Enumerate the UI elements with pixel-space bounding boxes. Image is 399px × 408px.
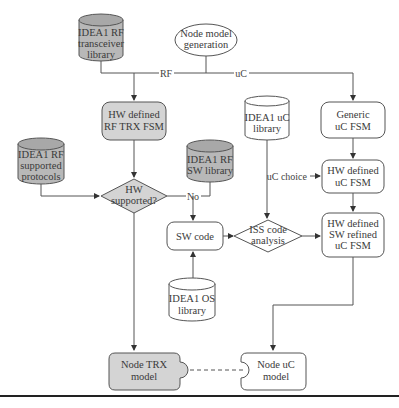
svg-text:SW code: SW code [176,231,214,242]
svg-text:HW: HW [125,184,143,195]
uc-edge-label: uC [235,68,247,79]
generic-uc-fsm-box: Generic uC FSM [321,102,385,138]
svg-text:HW defined: HW defined [327,165,379,176]
svg-text:IDEA1 uC: IDEA1 uC [244,112,289,123]
svg-text:generation: generation [184,39,229,50]
rf-sw-library-cylinder: IDEA1 RF SW library [187,140,234,182]
svg-text:protocols: protocols [21,171,60,182]
svg-text:SW refined: SW refined [329,229,378,240]
svg-text:supported: supported [20,160,62,171]
svg-text:Node TRX: Node TRX [121,359,168,370]
svg-text:library: library [253,123,282,134]
svg-text:SW library: SW library [187,165,234,176]
sw-code-box: SW code [167,222,223,250]
svg-text:IDEA1 OS: IDEA1 OS [169,293,216,304]
flow-diagram: IDEA1 RF transceiver library Node model … [0,0,399,408]
caption-divider-rule [0,395,399,397]
svg-text:ISS code: ISS code [249,224,287,235]
svg-text:IDEA1 RF: IDEA1 RF [78,27,124,38]
node-uc-model-block: Node uC model [241,353,306,390]
svg-text:IDEA1 RF: IDEA1 RF [18,149,64,160]
os-library-cylinder: IDEA1 OS library [169,278,216,321]
rf-edge-label: RF [160,68,173,79]
svg-text:model: model [263,371,289,382]
svg-text:transceiver: transceiver [78,38,125,49]
hw-defined-uc-fsm-box: HW defined uC FSM [322,160,384,193]
svg-text:HW defined: HW defined [108,109,160,120]
svg-text:RF TRX FSM: RF TRX FSM [104,121,165,132]
svg-text:uC FSM: uC FSM [335,177,372,188]
svg-text:HW defined: HW defined [327,218,379,229]
svg-text:uC FSM: uC FSM [335,121,372,132]
svg-text:Generic: Generic [336,109,370,120]
iss-code-analysis-decision: ISS code analysis [234,220,302,252]
svg-text:supported?: supported? [111,195,157,206]
svg-text:IDEA1 RF: IDEA1 RF [187,154,233,165]
uc-library-cylinder: IDEA1 uC library [244,96,289,140]
svg-text:model: model [131,371,157,382]
svg-text:analysis: analysis [251,235,285,246]
no-edge-label: No [187,191,199,202]
node-trx-model-block: Node TRX model [109,353,188,390]
node-model-generation-ellipse: Node model generation [175,24,237,56]
uc-choice-edge-label: uC choice [267,171,308,182]
svg-text:Node uC: Node uC [257,359,295,370]
svg-text:Node model: Node model [180,28,232,39]
hw-defined-rf-trx-fsm-box: HW defined RF TRX FSM [102,102,166,140]
rf-transceiver-library-cylinder: IDEA1 RF transceiver library [78,14,125,61]
hw-sw-refined-uc-fsm-box: HW defined SW refined uC FSM [322,213,384,257]
svg-text:uC FSM: uC FSM [335,240,372,251]
hw-supported-decision: HW supported? [101,179,167,213]
rf-supported-protocols-cylinder: IDEA1 RF supported protocols [18,138,64,184]
svg-text:library: library [178,305,207,316]
svg-text:library: library [87,49,116,60]
